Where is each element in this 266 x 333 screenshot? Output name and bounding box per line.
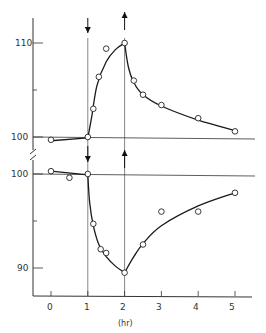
xtick-1: 1: [84, 302, 90, 312]
upper-ytick-110: 110: [15, 38, 32, 48]
x-axis-label: (hr): [118, 319, 133, 328]
curve-segment: [51, 138, 88, 141]
xtick-4: 4: [193, 302, 199, 312]
arrow-down-icon-head: [85, 156, 91, 162]
data-point: [91, 106, 97, 112]
lower-panel: [48, 168, 238, 275]
xtick-3: 3: [156, 302, 162, 312]
data-point: [159, 102, 165, 108]
data-point: [195, 115, 201, 121]
axis-labels: 110 100 100 90 0 1 2 3 4 5 (hr): [11, 38, 235, 328]
lower-ytick-90: 90: [17, 263, 29, 273]
data-point: [91, 221, 97, 227]
curve-segment: [125, 193, 235, 273]
curve-segment: [88, 43, 125, 138]
upper-ytick-100: 100: [11, 132, 28, 142]
data-point: [159, 209, 165, 215]
axis-break-mark: [30, 155, 36, 160]
lower-baseline-100: [33, 174, 255, 176]
data-point: [98, 246, 104, 252]
curve-segment: [125, 43, 235, 130]
data-point: [103, 250, 109, 256]
xtick-2: 2: [120, 302, 126, 312]
lower-ytick-100: 100: [11, 169, 28, 179]
data-point: [140, 242, 146, 248]
data-point: [122, 270, 128, 276]
data-point: [131, 78, 137, 84]
data-point: [48, 137, 54, 143]
data-point: [96, 74, 102, 80]
data-point: [85, 171, 91, 177]
upper-panel: [48, 40, 238, 142]
xtick-0: 0: [47, 302, 53, 312]
data-point: [122, 40, 128, 46]
arrow-up-icon-head: [122, 150, 128, 156]
x-axis: [33, 296, 252, 297]
data-point: [103, 46, 109, 52]
arrow-up-icon-head: [122, 12, 128, 18]
data-point: [67, 175, 73, 181]
data-point: [232, 190, 238, 196]
data-point: [232, 129, 238, 135]
data-point: [85, 134, 91, 140]
data-point: [140, 92, 146, 98]
xtick-5: 5: [229, 302, 235, 312]
arrow-down-icon-head: [85, 27, 91, 33]
upper-baseline-100: [33, 137, 255, 139]
chart: 110 100 100 90 0 1 2 3 4 5 (hr): [0, 0, 266, 333]
axes: [30, 12, 255, 297]
data-point: [195, 209, 201, 215]
data-point: [48, 168, 54, 174]
